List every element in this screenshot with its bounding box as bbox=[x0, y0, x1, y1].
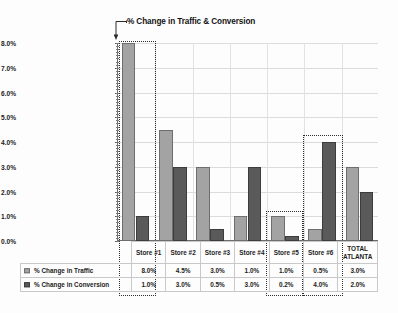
category-separator bbox=[155, 43, 156, 240]
gridline bbox=[118, 142, 378, 143]
y-axis-minor-tick bbox=[116, 229, 118, 230]
y-axis-minor-tick bbox=[116, 86, 118, 87]
bar-traffic[interactable] bbox=[234, 216, 248, 241]
y-axis-minor-tick bbox=[116, 68, 118, 69]
cell-conversion-store-1: 1.0% bbox=[132, 278, 166, 292]
legend-item-conversion: % Change in Conversion bbox=[21, 278, 132, 292]
cell-traffic-store-3: 3.0% bbox=[200, 264, 234, 278]
legend-label-conversion: % Change in Conversion bbox=[34, 281, 109, 288]
y-axis-minor-tick bbox=[116, 151, 118, 152]
chart-container: % Change in Traffic & Conversion 0.0%1.0… bbox=[0, 0, 398, 313]
table-row-traffic: % Change in Traffic 8.0% 4.5% 3.0% 1.0% … bbox=[21, 264, 378, 278]
y-axis-minor-tick bbox=[116, 204, 118, 205]
y-axis-minor-tick bbox=[116, 148, 118, 149]
data-table: Store #1 Store #2 Store #3 Store #4 Stor… bbox=[20, 241, 378, 292]
y-axis-minor-tick bbox=[116, 216, 118, 217]
y-axis-minor-tick bbox=[116, 108, 118, 109]
table-header-store-4: Store #4 bbox=[235, 242, 269, 264]
y-axis-minor-tick bbox=[116, 102, 118, 103]
gridline bbox=[118, 68, 378, 69]
bar-conversion[interactable] bbox=[360, 192, 374, 242]
cell-conversion-store-3: 0.5% bbox=[200, 278, 234, 292]
legend-swatch-conversion-icon bbox=[24, 282, 30, 288]
y-axis-minor-tick bbox=[116, 145, 118, 146]
bar-conversion[interactable] bbox=[210, 229, 224, 241]
y-axis-minor-tick bbox=[116, 130, 118, 131]
cell-traffic-store-5: 1.0% bbox=[269, 264, 303, 278]
y-axis-tick-label: 8.0% bbox=[1, 40, 16, 47]
bar-traffic[interactable] bbox=[122, 43, 136, 241]
y-axis-minor-tick bbox=[116, 182, 118, 183]
bar-traffic[interactable] bbox=[271, 216, 285, 241]
y-axis-minor-tick bbox=[116, 111, 118, 112]
bar-traffic[interactable] bbox=[346, 167, 360, 241]
y-axis-tick-label: 4.0% bbox=[1, 139, 16, 146]
bar-conversion[interactable] bbox=[136, 216, 150, 241]
y-axis-minor-tick bbox=[116, 201, 118, 202]
y-axis-minor-tick bbox=[116, 235, 118, 236]
cell-conversion-store-4: 3.0% bbox=[235, 278, 269, 292]
cell-traffic-store-4: 1.0% bbox=[235, 264, 269, 278]
y-axis-minor-tick bbox=[116, 46, 118, 47]
y-axis-minor-tick bbox=[116, 58, 118, 59]
y-axis-minor-tick bbox=[116, 80, 118, 81]
cell-conversion-store-6: 4.0% bbox=[303, 278, 337, 292]
bar-conversion[interactable] bbox=[248, 167, 262, 241]
y-axis-minor-tick bbox=[116, 179, 118, 180]
y-axis-minor-tick bbox=[116, 161, 118, 162]
y-axis-minor-tick bbox=[116, 117, 118, 118]
chart-title: % Change in Traffic & Conversion bbox=[127, 17, 255, 26]
y-axis-minor-tick bbox=[116, 139, 118, 140]
bar-conversion[interactable] bbox=[173, 167, 187, 241]
y-axis-minor-tick bbox=[116, 62, 118, 63]
table-header-row: Store #1 Store #2 Store #3 Store #4 Stor… bbox=[21, 242, 378, 264]
legend-swatch-traffic-icon bbox=[24, 268, 30, 274]
y-axis-minor-tick bbox=[116, 114, 118, 115]
y-axis-minor-tick bbox=[116, 198, 118, 199]
y-axis-tick-label: 5.0% bbox=[1, 114, 16, 121]
legend-item-traffic: % Change in Traffic bbox=[21, 264, 132, 278]
y-axis-minor-tick bbox=[116, 195, 118, 196]
table-header-store-5: Store #5 bbox=[269, 242, 303, 264]
gridline bbox=[118, 43, 378, 44]
category-separator bbox=[267, 43, 268, 240]
category-separator bbox=[342, 43, 343, 240]
y-axis-minor-tick bbox=[116, 207, 118, 208]
y-axis-minor-tick bbox=[116, 222, 118, 223]
y-axis-minor-tick bbox=[116, 167, 118, 168]
title-leader-arrow-icon bbox=[114, 20, 127, 41]
cell-conversion-store-2: 3.0% bbox=[166, 278, 200, 292]
y-axis-minor-tick bbox=[116, 83, 118, 84]
y-axis-tick-label: 2.0% bbox=[1, 188, 16, 195]
y-axis-minor-tick bbox=[116, 127, 118, 128]
y-axis-minor-tick bbox=[116, 55, 118, 56]
y-axis-minor-tick bbox=[116, 74, 118, 75]
y-axis-minor-tick bbox=[116, 136, 118, 137]
cell-traffic-store-2: 4.5% bbox=[166, 264, 200, 278]
y-axis-minor-tick bbox=[116, 93, 118, 94]
table-corner-cell bbox=[21, 242, 132, 264]
bar-conversion[interactable] bbox=[322, 142, 336, 241]
bar-traffic[interactable] bbox=[196, 167, 210, 241]
y-axis-minor-tick bbox=[116, 219, 118, 220]
bar-traffic[interactable] bbox=[308, 229, 322, 241]
bar-traffic[interactable] bbox=[159, 130, 173, 241]
y-axis-minor-tick bbox=[116, 170, 118, 171]
y-axis-minor-tick bbox=[116, 192, 118, 193]
table-header-store-6: Store #6 bbox=[303, 242, 337, 264]
table-header-total-atlanta: TOTAL ATLANTA bbox=[338, 242, 378, 264]
y-axis-minor-tick bbox=[116, 232, 118, 233]
cell-traffic-store-6: 0.5% bbox=[303, 264, 337, 278]
y-axis-minor-tick bbox=[116, 154, 118, 155]
y-axis-minor-tick bbox=[116, 133, 118, 134]
y-axis-minor-tick bbox=[116, 89, 118, 90]
y-axis-minor-tick bbox=[116, 173, 118, 174]
y-axis-minor-tick bbox=[116, 226, 118, 227]
y-axis-minor-tick bbox=[116, 188, 118, 189]
y-axis-minor-tick bbox=[116, 71, 118, 72]
total-label: TOTAL bbox=[347, 245, 368, 252]
table-header-store-3: Store #3 bbox=[200, 242, 234, 264]
y-axis-minor-tick bbox=[116, 238, 118, 239]
y-axis-minor-tick bbox=[116, 157, 118, 158]
y-axis-minor-tick bbox=[116, 185, 118, 186]
